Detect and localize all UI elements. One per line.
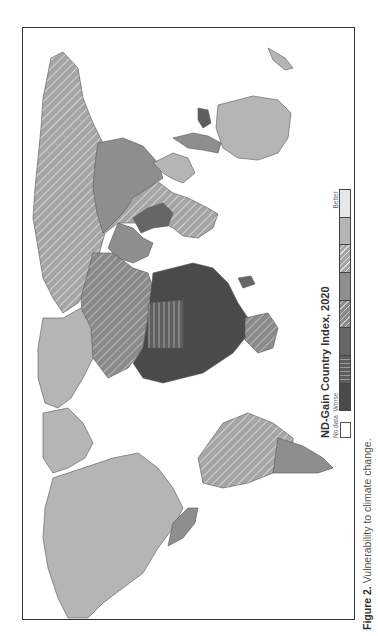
region-north-america — [43, 453, 183, 618]
world-map — [23, 28, 356, 621]
legend-title: ND-Gain Country Index, 2020 — [319, 188, 331, 438]
figure-caption: Figure 2. Vulnerability to climate chang… — [361, 438, 373, 630]
region-sahel — [148, 300, 183, 348]
region-philippines — [198, 108, 211, 128]
region-new-zealand — [268, 48, 293, 70]
better-label: Better — [332, 191, 339, 208]
region-southern-africa — [245, 313, 278, 353]
region-australia — [216, 96, 291, 160]
caption-label: Figure 2. — [361, 586, 373, 630]
region-europe — [38, 308, 93, 408]
region-greenland — [43, 408, 93, 473]
swatch-7 — [340, 217, 350, 245]
region-south-america-south — [273, 438, 333, 473]
swatch-2 — [340, 355, 350, 383]
swatch-1 — [340, 383, 350, 411]
legend-no-data: No data — [332, 415, 351, 438]
worse-label: Worse — [332, 393, 339, 412]
no-data-swatch — [340, 422, 351, 438]
caption-text: Vulnerability to climate change. — [361, 438, 373, 586]
region-madagascar — [238, 276, 255, 288]
legend: ND-Gain Country Index, 2020 No data Wors… — [319, 188, 351, 438]
region-indonesia — [173, 133, 221, 153]
swatch-4 — [340, 300, 350, 328]
swatch-8 — [340, 190, 350, 217]
swatch-5 — [340, 272, 350, 300]
swatch-3 — [340, 327, 350, 355]
legend-scale — [339, 189, 351, 411]
swatch-6 — [340, 244, 350, 272]
map-frame: ND-Gain Country Index, 2020 No data Wors… — [22, 27, 355, 620]
no-data-label: No data — [332, 415, 339, 438]
